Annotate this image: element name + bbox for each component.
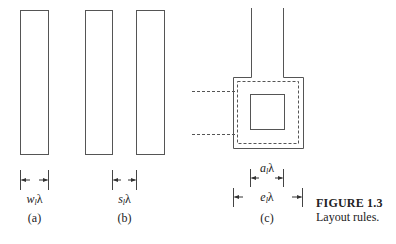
panel-tag-b: (b) (118, 211, 132, 225)
cut-size-label: alλ (260, 161, 274, 176)
wire-rect-right (137, 11, 165, 155)
panel-c: alλ elλ (c) (192, 8, 304, 225)
panel-tag-a: (a) (28, 211, 41, 225)
surround-dashed-box (238, 82, 299, 144)
figure-caption: Layout rules. (316, 211, 379, 223)
surround-label: elλ (260, 190, 274, 205)
spacing-dimension (113, 170, 137, 190)
panel-a: wlλ (a) (21, 11, 49, 226)
wire-rect (21, 11, 49, 155)
contact-outline (234, 8, 304, 149)
panel-b: slλ (b) (86, 11, 165, 226)
figure-title: FIGURE 1.3 (316, 197, 383, 209)
width-label: wlλ (26, 192, 42, 207)
width-dimension (21, 170, 49, 190)
spacing-label: slλ (118, 192, 131, 207)
contact-cut-square (251, 95, 285, 130)
panel-tag-c: (c) (260, 211, 273, 225)
wire-rect-left (86, 11, 113, 155)
